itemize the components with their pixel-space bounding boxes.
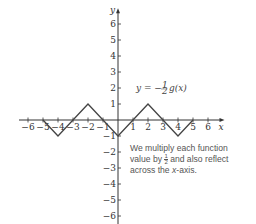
x-tick-label: 5 (190, 122, 196, 132)
x-tick-label: −2 (81, 122, 94, 132)
y-axis-label: y (109, 5, 116, 15)
note-line: across the (130, 165, 172, 175)
y-tick-label: 3 (110, 67, 116, 77)
x-tick-label: 6 (205, 122, 211, 132)
note-line: and also reflect (168, 154, 229, 164)
y-tick-label: 6 (110, 19, 116, 29)
chart-canvas: xy−6−5−4−3−2−1123456−6−5−4−3−2−1123456y … (0, 0, 256, 224)
note-line: value by (130, 154, 164, 164)
equation-tail: g(x) (169, 83, 187, 93)
equation-label: y = − (135, 83, 162, 93)
note-line: -axis. (176, 165, 197, 175)
y-tick-label: 4 (110, 51, 116, 61)
y-tick-label: −5 (103, 195, 117, 205)
annotation-note: We multiply each function value by 12 an… (130, 143, 255, 175)
x-tick-label: 1 (130, 122, 136, 132)
y-tick-label: −6 (103, 211, 117, 221)
y-tick-label: 5 (110, 35, 116, 45)
y-arrow-icon (116, 8, 120, 13)
x-tick-label: −3 (66, 122, 80, 132)
x-tick-label: 3 (160, 122, 166, 132)
x-tick-label: −6 (21, 122, 35, 132)
x-tick-label: 2 (145, 122, 151, 132)
x-tick-label: 4 (175, 122, 181, 132)
x-axis-label: x (219, 122, 224, 132)
eq-frac-den: 2 (161, 86, 168, 96)
x-tick-label: −5 (36, 122, 50, 132)
note-line: We multiply each function (130, 143, 228, 153)
y-tick-label: −3 (103, 163, 117, 173)
y-tick-label: −2 (103, 147, 116, 157)
y-tick-label: 1 (110, 99, 116, 109)
y-tick-label: −4 (103, 179, 117, 189)
y-tick-label: 2 (110, 83, 116, 93)
